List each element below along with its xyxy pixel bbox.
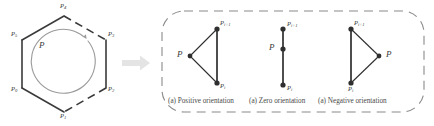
hexagon-edge-lower-left [22,88,64,112]
edge-query-to-cur [351,56,379,83]
hexagon-group [22,16,106,112]
hexagon-vertex-label-bottom: P1 [60,113,66,121]
positive-point-cur-label: Pi [220,83,225,91]
hexagon-vertex-label-lower-left: P0 [11,86,17,94]
edge-next-to-query [351,29,379,56]
point-next-dot [280,26,285,31]
hexagon-vertex-label-upper-right: P3 [108,31,114,39]
hexagon-vertex-label-top: P4 [60,3,66,11]
point-query-dot [188,54,193,59]
caption-positive-orientation: (a) Positive orientation [168,98,234,105]
figure-vector-layer [0,0,434,126]
orientation-figure: P P4 P3 P2 P1 P0 P5 Pi+1 P Pi Pi+1 P Pi … [0,0,434,126]
negative-point-cur-label: Pi [348,86,353,94]
case-positive-triangle [188,26,220,85]
case-negative-triangle [348,26,381,85]
transition-arrow-icon [122,56,150,71]
point-cur-dot [214,80,219,85]
edge-next-to-query [190,29,217,56]
zero-point-next-label: Pi+1 [287,21,297,29]
zero-point-query-label: P [269,43,275,53]
positive-point-query-label: P [177,50,183,60]
orientation-arrow-icon [31,29,95,93]
caption-negative-orientation: (a) Negative orientation [318,98,387,105]
point-next-dot [348,26,353,31]
zero-point-cur-label: Pi [287,85,292,93]
polygon-interior-label: P [39,41,45,50]
positive-point-next-label: Pi+1 [220,20,230,28]
point-next-dot [214,26,219,31]
negative-point-next-label: Pi+1 [354,20,364,28]
negative-point-query-label: P [386,50,392,60]
point-cur-dot [280,82,285,87]
point-query-dot [280,46,285,51]
hexagon-vertex-label-upper-left: P5 [11,31,17,39]
hexagon-vertex-label-lower-right: P2 [108,86,114,94]
caption-zero-orientation: (a) Zero orientation [249,98,305,105]
edge-query-to-cur [190,56,217,83]
point-query-dot [377,54,382,59]
hexagon-edge-lower-right [64,88,106,112]
case-zero-triangle [280,26,285,87]
